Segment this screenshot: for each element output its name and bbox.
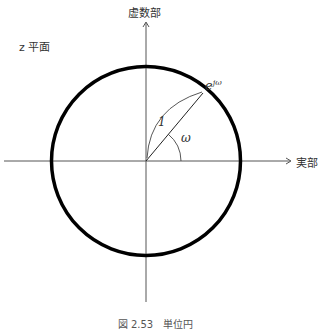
point-label-exponent: jω bbox=[213, 78, 222, 87]
point-label-base: e bbox=[205, 78, 213, 93]
figure-caption: 図 2.53 単位円 bbox=[0, 316, 311, 331]
real-axis-label: 実部 bbox=[296, 154, 318, 170]
radius-label: 1 bbox=[158, 115, 166, 129]
imag-axis-label: 虚数部 bbox=[128, 4, 161, 20]
radius-arc bbox=[147, 92, 202, 158]
plane-label: z 平面 bbox=[19, 38, 50, 54]
angle-label: ω bbox=[181, 131, 191, 145]
angle-arc bbox=[168, 134, 181, 161]
point-label: ejω bbox=[205, 78, 222, 93]
radius-line bbox=[146, 93, 203, 161]
